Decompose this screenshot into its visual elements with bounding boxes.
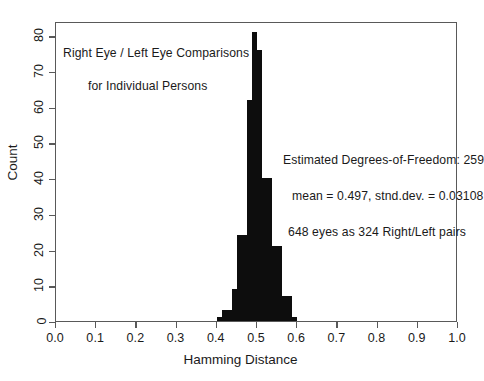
x-tick-label: 0.4 <box>196 331 236 345</box>
x-tick-mark <box>457 322 458 328</box>
annotation-sample-size: 648 eyes as 324 Right/Left pairs <box>288 225 466 239</box>
x-tick-mark <box>296 322 297 328</box>
plot-frame <box>55 22 457 322</box>
y-tick-mark <box>49 251 55 252</box>
histogram-bar <box>292 317 297 321</box>
y-tick-label: 10 <box>0 278 46 292</box>
y-tick-mark <box>49 108 55 109</box>
x-tick-label: 0.7 <box>316 331 356 345</box>
y-tick-label: 0 <box>0 314 46 328</box>
x-tick-mark <box>176 322 177 328</box>
x-tick-label: 0.6 <box>276 331 316 345</box>
x-axis-title: Hamming Distance <box>0 352 481 367</box>
y-tick-label: 60 <box>0 100 46 114</box>
annotation-degrees-of-freedom: Estimated Degrees-of-Freedom: 259 <box>283 153 484 167</box>
y-tick-mark <box>49 322 55 323</box>
x-tick-label: 1.0 <box>437 331 477 345</box>
x-tick-label: 0.1 <box>75 331 115 345</box>
x-tick-mark <box>95 322 96 328</box>
x-tick-label: 0.8 <box>357 331 397 345</box>
y-tick-label: 30 <box>0 207 46 221</box>
y-tick-mark <box>49 36 55 37</box>
x-tick-mark <box>417 322 418 328</box>
y-tick-label: 70 <box>0 64 46 78</box>
x-tick-mark <box>216 322 217 328</box>
x-tick-label: 0.0 <box>35 331 75 345</box>
y-tick-mark <box>49 286 55 287</box>
x-tick-label: 0.5 <box>236 331 276 345</box>
y-tick-mark <box>49 215 55 216</box>
annotation-title-line-1: Right Eye / Left Eye Comparisons <box>63 46 249 60</box>
x-tick-mark <box>55 322 56 328</box>
x-tick-label: 0.2 <box>115 331 155 345</box>
y-tick-mark <box>49 143 55 144</box>
x-tick-mark <box>336 322 337 328</box>
x-tick-mark <box>256 322 257 328</box>
x-tick-mark <box>377 322 378 328</box>
annotation-title-line-2: for Individual Persons <box>88 79 207 93</box>
y-tick-label: 80 <box>0 28 46 42</box>
x-tick-label: 0.3 <box>156 331 196 345</box>
annotation-mean-stddev: mean = 0.497, stnd.dev. = 0.03108 <box>292 189 483 203</box>
histogram-bars <box>56 23 456 321</box>
y-tick-label: 20 <box>0 243 46 257</box>
y-axis-title: Count <box>5 118 20 208</box>
y-tick-mark <box>49 179 55 180</box>
x-tick-label: 0.9 <box>397 331 437 345</box>
x-tick-mark <box>135 322 136 328</box>
y-tick-mark <box>49 72 55 73</box>
